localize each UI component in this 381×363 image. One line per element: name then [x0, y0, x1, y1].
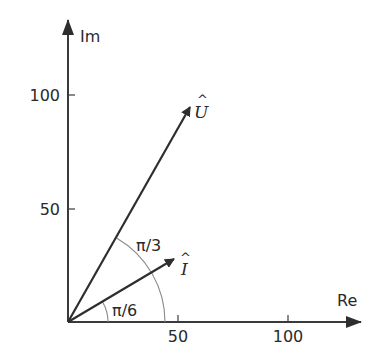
angle-label-pi-3: π/3: [136, 236, 161, 255]
angle-arc-small: [103, 302, 108, 322]
vector-u: [68, 107, 190, 322]
imaginary-axis-label: Im: [80, 27, 100, 46]
y-tick-label-100: 100: [29, 86, 60, 105]
real-axis-label: Re: [337, 291, 357, 310]
x-tick-label-50: 50: [168, 327, 188, 346]
vector-u-hat: ^: [197, 92, 208, 107]
vector-i-hat: ^: [180, 250, 191, 265]
y-tick-label-50: 50: [40, 200, 60, 219]
angle-label-pi-6: π/6: [112, 301, 137, 320]
phasor-diagram: 50 100 50 100 Re Im U ^ I ^ π/3 π/6: [0, 0, 381, 363]
x-tick-label-100: 100: [273, 327, 304, 346]
